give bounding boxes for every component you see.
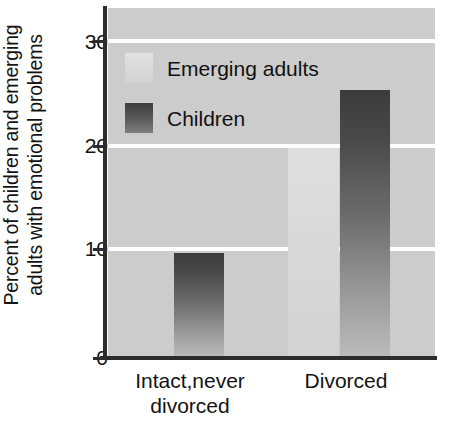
x-category-label-divorced: Divorced	[276, 368, 416, 393]
y-axis-spine	[103, 6, 107, 360]
legend-label-emerging-adults: Emerging adults	[167, 58, 319, 79]
bar-divorced-children	[340, 90, 390, 358]
x-axis-spine	[100, 356, 437, 360]
legend-item-children: Children	[125, 103, 245, 133]
legend-swatch-children	[125, 103, 153, 133]
bar-intact-children	[174, 253, 224, 358]
bar-divorced-emerging-adults	[288, 148, 339, 358]
y-axis-ticks: 30 20 10 0	[0, 0, 108, 426]
bar-chart: Percent of children and emerging adults …	[0, 0, 457, 426]
plot-area: Emerging adults Children	[108, 8, 435, 358]
legend-item-emerging-adults: Emerging adults	[125, 53, 319, 83]
legend-label-children: Children	[167, 108, 245, 129]
legend-swatch-emerging-adults	[125, 53, 153, 83]
x-category-label-intact: Intact,never divorced	[110, 368, 270, 418]
gridline-30	[108, 39, 435, 43]
